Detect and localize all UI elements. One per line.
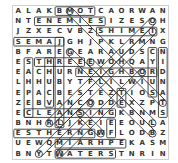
- letter-cell[interactable]: B: [13, 118, 23, 128]
- letter-cell[interactable]: P: [106, 138, 116, 148]
- letter-cell[interactable]: E: [137, 26, 147, 36]
- letter-cell[interactable]: D: [137, 128, 147, 138]
- letter-cell[interactable]: R: [65, 128, 75, 138]
- letter-cell[interactable]: N: [65, 108, 75, 118]
- letter-cell[interactable]: E: [75, 47, 85, 57]
- letter-cell[interactable]: P: [23, 88, 33, 98]
- letter-cell[interactable]: F: [23, 47, 33, 57]
- letter-cell[interactable]: A: [65, 149, 75, 159]
- letter-cell[interactable]: R: [44, 47, 54, 57]
- letter-cell[interactable]: I: [96, 118, 106, 128]
- letter-cell[interactable]: E: [85, 57, 95, 67]
- letter-cell[interactable]: P: [147, 98, 157, 108]
- letter-cell[interactable]: E: [54, 16, 64, 26]
- letter-cell[interactable]: S: [96, 26, 106, 36]
- letter-cell[interactable]: I: [65, 138, 75, 148]
- letter-cell[interactable]: B: [147, 128, 157, 138]
- letter-cell[interactable]: E: [127, 16, 137, 26]
- letter-cell[interactable]: N: [127, 149, 137, 159]
- letter-cell[interactable]: U: [44, 77, 54, 87]
- letter-cell[interactable]: M: [127, 26, 137, 36]
- letter-cell[interactable]: N: [75, 67, 85, 77]
- letter-cell[interactable]: E: [34, 16, 44, 26]
- letter-cell[interactable]: E: [65, 88, 75, 98]
- letter-cell[interactable]: Y: [65, 77, 75, 87]
- letter-cell[interactable]: A: [13, 6, 23, 16]
- letter-cell[interactable]: S: [23, 128, 33, 138]
- letter-cell[interactable]: A: [147, 6, 157, 16]
- letter-cell[interactable]: D: [158, 67, 168, 77]
- letter-cell[interactable]: L: [34, 108, 44, 118]
- letter-cell[interactable]: H: [96, 138, 106, 148]
- letter-cell[interactable]: G: [65, 47, 75, 57]
- letter-cell[interactable]: E: [44, 26, 54, 36]
- letter-cell[interactable]: E: [44, 108, 54, 118]
- letter-cell[interactable]: H: [106, 26, 116, 36]
- letter-cell[interactable]: U: [116, 47, 126, 57]
- letter-cell[interactable]: A: [34, 6, 44, 16]
- letter-cell[interactable]: S: [137, 47, 147, 57]
- letter-cell[interactable]: F: [106, 128, 116, 138]
- letter-cell[interactable]: M: [158, 138, 168, 148]
- letter-cell[interactable]: B: [54, 88, 64, 98]
- letter-cell[interactable]: L: [54, 118, 64, 128]
- letter-cell[interactable]: N: [137, 108, 147, 118]
- letter-cell[interactable]: D: [106, 98, 116, 108]
- letter-cell[interactable]: O: [127, 128, 137, 138]
- letter-cell[interactable]: B: [75, 26, 85, 36]
- letter-cell[interactable]: S: [23, 57, 33, 67]
- letter-cell[interactable]: G: [158, 37, 168, 47]
- letter-cell[interactable]: A: [85, 47, 95, 57]
- letter-cell[interactable]: E: [13, 57, 23, 67]
- letter-cell[interactable]: I: [147, 149, 157, 159]
- letter-cell[interactable]: M: [137, 37, 147, 47]
- letter-cell[interactable]: N: [65, 98, 75, 108]
- letter-cell[interactable]: L: [116, 77, 126, 87]
- letter-cell[interactable]: S: [147, 88, 157, 98]
- letter-cell[interactable]: A: [137, 138, 147, 148]
- letter-cell[interactable]: I: [85, 108, 95, 118]
- letter-cell[interactable]: X: [34, 26, 44, 36]
- letter-cell[interactable]: C: [96, 6, 106, 16]
- letter-cell[interactable]: Z: [13, 98, 23, 108]
- letter-cell[interactable]: I: [96, 67, 106, 77]
- letter-cell[interactable]: O: [147, 16, 157, 26]
- letter-cell[interactable]: U: [137, 118, 147, 128]
- letter-cell[interactable]: N: [158, 47, 168, 57]
- letter-cell[interactable]: E: [75, 57, 85, 67]
- letter-cell[interactable]: S: [158, 108, 168, 118]
- letter-cell[interactable]: L: [23, 6, 33, 16]
- letter-cell[interactable]: W: [96, 57, 106, 67]
- letter-cell[interactable]: C: [23, 108, 33, 118]
- letter-cell[interactable]: A: [34, 47, 44, 57]
- letter-cell[interactable]: R: [127, 37, 137, 47]
- letter-cell[interactable]: W: [34, 138, 44, 148]
- letter-cell[interactable]: U: [54, 67, 64, 77]
- letter-cell[interactable]: L: [13, 77, 23, 87]
- letter-cell[interactable]: I: [106, 16, 116, 26]
- letter-cell[interactable]: E: [85, 118, 95, 128]
- letter-cell[interactable]: L: [116, 37, 126, 47]
- letter-cell[interactable]: V: [44, 98, 54, 108]
- letter-cell[interactable]: U: [147, 77, 157, 87]
- letter-cell[interactable]: B: [13, 47, 23, 57]
- letter-cell[interactable]: T: [116, 149, 126, 159]
- letter-cell[interactable]: S: [106, 149, 116, 159]
- letter-cell[interactable]: W: [137, 6, 147, 16]
- letter-cell[interactable]: Z: [137, 98, 147, 108]
- letter-cell[interactable]: C: [34, 67, 44, 77]
- letter-cell[interactable]: R: [127, 6, 137, 16]
- letter-cell[interactable]: A: [23, 67, 33, 77]
- letter-cell[interactable]: O: [127, 118, 137, 128]
- letter-cell[interactable]: N: [96, 108, 106, 118]
- letter-cell[interactable]: T: [85, 88, 95, 98]
- letter-cell[interactable]: E: [116, 138, 126, 148]
- letter-cell[interactable]: A: [44, 37, 54, 47]
- letter-cell[interactable]: R: [44, 118, 54, 128]
- letter-cell[interactable]: R: [85, 138, 95, 148]
- letter-cell[interactable]: W: [96, 128, 106, 138]
- letter-cell[interactable]: R: [96, 149, 106, 159]
- letter-cell[interactable]: O: [116, 6, 126, 16]
- letter-cell[interactable]: T: [34, 57, 44, 67]
- letter-cell[interactable]: L: [116, 128, 126, 138]
